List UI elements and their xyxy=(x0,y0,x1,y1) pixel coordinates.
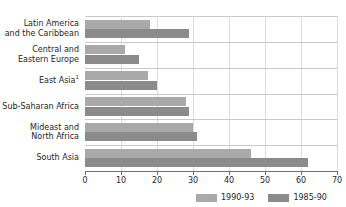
plot-area xyxy=(85,16,337,171)
x-tick-label: 10 xyxy=(108,176,134,185)
x-tick xyxy=(121,171,122,175)
bar xyxy=(85,149,251,158)
x-tick-label: 40 xyxy=(216,176,242,185)
bar-group xyxy=(85,145,337,171)
x-tick xyxy=(301,171,302,175)
category-axis-labels: Latin Americaand the CaribbeanCentral an… xyxy=(0,16,82,171)
bar xyxy=(85,81,157,90)
bar-group xyxy=(85,119,337,145)
category-label: East Asia1 xyxy=(0,76,79,86)
bar-group xyxy=(85,94,337,120)
x-tick-label: 20 xyxy=(144,176,170,185)
chart-legend: 1990-931985-90 xyxy=(196,191,327,204)
bar-group xyxy=(85,42,337,68)
bar xyxy=(85,132,197,141)
bar xyxy=(85,71,148,80)
legend-label: 1990-93 xyxy=(221,193,254,202)
category-label: South Asia xyxy=(0,153,79,163)
footnote-marker: 1 xyxy=(76,74,80,80)
bar-group xyxy=(85,16,337,42)
legend-label: 1985-90 xyxy=(293,193,326,202)
x-tick xyxy=(85,171,86,175)
bar-chart: Latin Americaand the CaribbeanCentral an… xyxy=(0,0,346,207)
bar xyxy=(85,20,150,29)
gridline xyxy=(337,16,338,171)
x-axis-line xyxy=(85,171,337,172)
bar xyxy=(85,97,186,106)
x-tick xyxy=(229,171,230,175)
bar xyxy=(85,123,193,132)
legend-swatch-icon xyxy=(268,194,289,202)
legend-item[interactable]: 1985-90 xyxy=(268,193,326,202)
category-label: Central andEastern Europe xyxy=(0,45,79,64)
legend-item[interactable]: 1990-93 xyxy=(196,193,254,202)
legend-swatch-icon xyxy=(196,194,217,202)
x-tick-label: 30 xyxy=(180,176,206,185)
bar xyxy=(85,55,139,64)
x-tick-label: 70 xyxy=(324,176,346,185)
chart-title xyxy=(0,0,346,7)
bar xyxy=(85,45,125,54)
x-tick-label: 60 xyxy=(288,176,314,185)
x-tick xyxy=(265,171,266,175)
bar xyxy=(85,29,189,38)
x-tick xyxy=(157,171,158,175)
x-tick-label: 0 xyxy=(72,176,98,185)
category-label: Mideast andNorth Africa xyxy=(0,123,79,142)
bar xyxy=(85,158,308,167)
x-tick-label: 50 xyxy=(252,176,278,185)
bar xyxy=(85,107,189,116)
category-label: Latin Americaand the Caribbean xyxy=(0,19,79,38)
bar-group xyxy=(85,68,337,94)
x-tick xyxy=(337,171,338,175)
x-tick xyxy=(193,171,194,175)
category-label: Sub-Saharan Africa xyxy=(0,102,79,112)
